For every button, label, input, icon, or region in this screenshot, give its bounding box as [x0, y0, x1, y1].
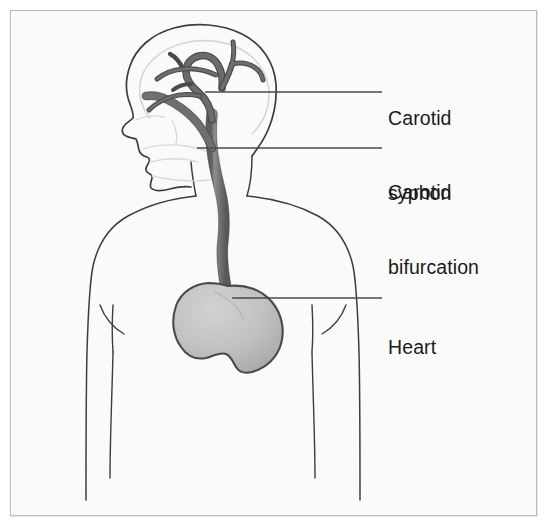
label-carotid-bifurcation-line2: bifurcation: [388, 255, 479, 280]
figure-root: Carotid syphon Carotid bifurcation Heart: [0, 0, 549, 529]
skull-cranium: [122, 25, 276, 191]
common-carotid: [211, 114, 226, 288]
arm-right: [312, 305, 346, 352]
heart-organ: [173, 283, 282, 373]
label-carotid-syphon-line1: Carotid: [388, 106, 452, 131]
arm-left: [100, 305, 124, 352]
label-heart-line1: Heart: [388, 335, 436, 360]
label-heart: Heart: [388, 285, 436, 410]
internal-carotid-syphon: [186, 55, 222, 120]
label-carotid-bifurcation-line1: Carotid: [388, 180, 479, 205]
torso-waist: [110, 352, 315, 478]
